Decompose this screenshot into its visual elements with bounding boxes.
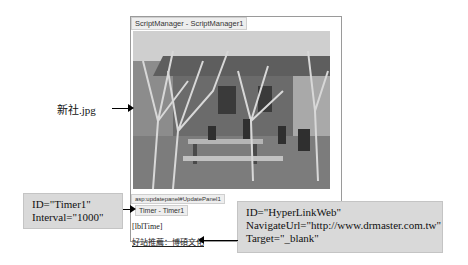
hyperlink-callout: ID="HyperLinkWeb" NavigateUrl="http://ww… bbox=[237, 201, 443, 253]
script-manager-tag[interactable]: ScriptManager - ScriptManager1 bbox=[131, 17, 247, 30]
hyperlink-arrow-line bbox=[204, 240, 238, 241]
timer-callout: ID="Timer1" Interval="1000" bbox=[23, 193, 123, 229]
hyperlink-web[interactable]: 好站推薦：博碩文化 bbox=[132, 236, 204, 247]
hyperlink-target-text: Target="_blank" bbox=[246, 232, 434, 245]
timer-interval-text: Interval="1000" bbox=[32, 211, 114, 224]
time-label: [lblTime] bbox=[132, 222, 162, 231]
photo-scene-icon bbox=[133, 31, 330, 189]
hyperlink-url-text: NavigateUrl="http://www.drmaster.com.tw" bbox=[246, 219, 434, 232]
image-caption: 新社.jpg bbox=[57, 101, 96, 117]
timer-control[interactable]: Timer - Timer1 bbox=[135, 205, 188, 216]
hyperlink-id-text: ID="HyperLinkWeb" bbox=[246, 206, 434, 219]
arrow-right-icon bbox=[128, 104, 134, 112]
arrow-left-icon bbox=[198, 236, 204, 244]
timer-id-text: ID="Timer1" bbox=[32, 198, 114, 211]
arrow-right-icon bbox=[130, 205, 136, 213]
update-panel-tag[interactable]: asp:updatepanel#UpdatePanel1 bbox=[131, 194, 225, 204]
photo-image[interactable] bbox=[133, 31, 330, 189]
